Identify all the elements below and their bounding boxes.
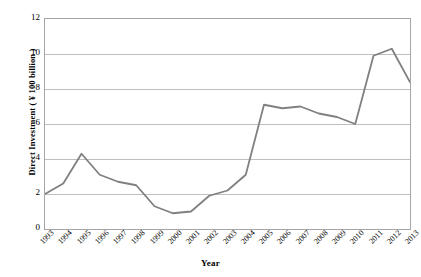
x-axis-tick-labels: 1993199419951996199719981999200020012002… <box>44 229 410 259</box>
gridlines <box>45 20 410 195</box>
plot-svg <box>45 19 410 229</box>
y-axis-tick-label: 2 <box>18 188 40 197</box>
data-line <box>45 49 410 214</box>
y-axis-tick-label: 0 <box>18 223 40 232</box>
y-axis-tick-label: 8 <box>18 83 40 92</box>
x-axis-title: Year <box>0 258 421 268</box>
y-axis-tick-label: 4 <box>18 153 40 162</box>
y-axis-tick-label: 6 <box>18 118 40 127</box>
plot-area <box>44 18 411 230</box>
y-axis-tick-labels: 024681012 <box>0 0 40 277</box>
line-chart: Direct Investment ( ¥ 100 billion ) 0246… <box>0 0 421 277</box>
data-series-group <box>45 49 410 214</box>
y-axis-tick-label: 10 <box>18 48 40 57</box>
y-axis-tick-label: 12 <box>18 13 40 22</box>
